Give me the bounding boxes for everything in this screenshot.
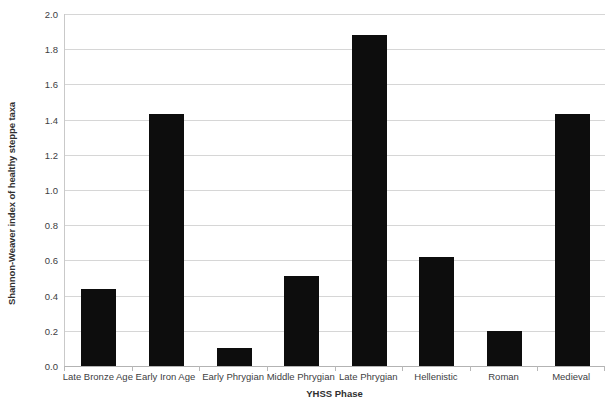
y-axis-tick-labels: 0.00.20.40.60.81.01.21.41.61.82.0 xyxy=(22,14,64,366)
bar xyxy=(149,114,184,366)
y-tick-label: 0.6 xyxy=(45,255,58,266)
y-tick-label: 1.4 xyxy=(45,114,58,125)
x-tick-label: Middle Phrygian xyxy=(267,371,335,382)
x-axis-title: YHSS Phase xyxy=(64,388,605,399)
y-tick-label: 0.2 xyxy=(45,325,58,336)
x-tick-label: Early Iron Age xyxy=(136,371,196,382)
y-tick-label: 1.6 xyxy=(45,79,58,90)
x-tick-label: Hellenistic xyxy=(414,371,457,382)
y-tick-label: 1.2 xyxy=(45,149,58,160)
y-tick-label: 1.8 xyxy=(45,44,58,55)
bar xyxy=(487,331,522,366)
bar xyxy=(555,114,590,366)
bar xyxy=(284,276,319,366)
bar-chart: Shannon-Weaver index of healthy steppe t… xyxy=(0,0,612,407)
y-tick-label: 0.8 xyxy=(45,220,58,231)
x-tick-label: Late Bronze Age xyxy=(63,371,133,382)
plot-area xyxy=(64,14,605,366)
bar xyxy=(419,257,454,366)
y-tick-label: 0.0 xyxy=(45,361,58,372)
x-tick-label: Roman xyxy=(488,371,519,382)
y-tick-label: 1.0 xyxy=(45,185,58,196)
bar xyxy=(81,289,116,366)
x-tick-label: Medieval xyxy=(552,371,590,382)
y-axis-title: Shannon-Weaver index of healthy steppe t… xyxy=(0,0,22,407)
x-axis-tick-labels: Late Bronze AgeEarly Iron AgeEarly Phryg… xyxy=(64,371,605,387)
y-tick-label: 0.4 xyxy=(45,290,58,301)
x-tick-label: Late Phrygian xyxy=(339,371,398,382)
bars-layer xyxy=(65,14,605,366)
bar xyxy=(217,348,252,366)
bar xyxy=(352,35,387,366)
x-tick-label: Early Phrygian xyxy=(202,371,264,382)
y-tick-label: 2.0 xyxy=(45,9,58,20)
